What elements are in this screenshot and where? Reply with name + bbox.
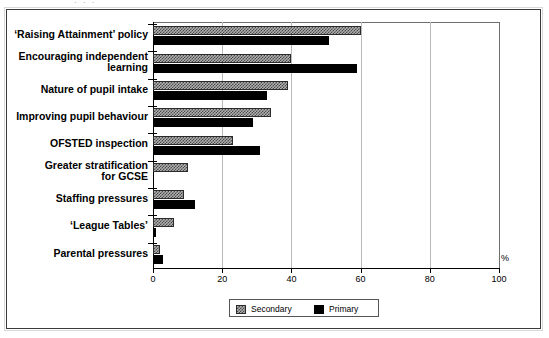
- category-label-1-line-1: learning: [2, 62, 148, 74]
- category-tick-1: [148, 51, 157, 52]
- category-label-0-line-0: ‘Raising Attainment’ policy: [2, 29, 148, 41]
- bar-primary-1: [153, 64, 357, 73]
- category-label-3: Improving pupil behaviour: [2, 111, 148, 123]
- bar-primary-4: [153, 146, 260, 155]
- category-label-4-line-0: OFSTED inspection: [2, 138, 148, 150]
- category-label-8: Parental pressures: [2, 248, 148, 260]
- chart-legend: Secondary Primary: [229, 299, 379, 317]
- bar-secondary-3: [153, 108, 271, 117]
- category-label-0: ‘Raising Attainment’ policy: [2, 29, 148, 41]
- category-axis-labels: ‘Raising Attainment’ policyEncouraging i…: [0, 0, 148, 338]
- category-label-6-line-0: Staffing pressures: [2, 193, 148, 205]
- bar-secondary-6: [153, 190, 184, 199]
- category-label-5-line-1: for GCSE: [2, 171, 148, 183]
- category-label-2: Nature of pupil intake: [2, 84, 148, 96]
- x-tick-label-40: 40: [276, 274, 306, 285]
- category-tick-6: [148, 188, 157, 189]
- bar-secondary-5: [153, 163, 188, 172]
- x-tick-label-100: 100: [484, 274, 514, 285]
- bar-secondary-1: [153, 54, 291, 63]
- x-tick-80: [430, 269, 431, 273]
- x-tick-40: [291, 269, 292, 273]
- gridline-60: [361, 22, 362, 268]
- bar-secondary-0: [153, 26, 361, 35]
- category-label-8-line-0: Parental pressures: [2, 248, 148, 260]
- chart-figure: · · · ‘Raising Attainment’ policyEncoura…: [0, 0, 549, 338]
- bar-secondary-2: [153, 81, 288, 90]
- bar-primary-2: [153, 91, 267, 100]
- x-tick-20: [222, 269, 223, 273]
- category-label-3-line-0: Improving pupil behaviour: [2, 111, 148, 123]
- category-tick-7: [148, 215, 157, 216]
- category-label-7-line-0: ‘League Tables’: [2, 220, 148, 232]
- bar-primary-0: [153, 36, 329, 45]
- gridline-40: [291, 22, 292, 268]
- legend-swatch-primary: [314, 305, 324, 314]
- bar-secondary-8: [153, 245, 160, 254]
- legend-label-secondary: Secondary: [251, 303, 292, 315]
- category-label-6: Staffing pressures: [2, 193, 148, 205]
- category-label-5: Greater stratificationfor GCSE: [2, 160, 148, 183]
- x-tick-0: [153, 269, 154, 273]
- x-tick-label-0: 0: [138, 274, 168, 285]
- category-tick-3: [148, 106, 157, 107]
- bar-secondary-4: [153, 136, 233, 145]
- category-tick-4: [148, 133, 157, 134]
- x-axis-line: [153, 268, 500, 269]
- category-label-4: OFSTED inspection: [2, 138, 148, 150]
- plot-top-border: [153, 22, 500, 23]
- gridline-80: [430, 22, 431, 268]
- legend-label-primary: Primary: [329, 303, 358, 315]
- category-label-1: Encouraging independentlearning: [2, 51, 148, 74]
- x-tick-label-80: 80: [415, 274, 445, 285]
- x-tick-60: [361, 269, 362, 273]
- bar-primary-3: [153, 118, 253, 127]
- category-tick-0: [148, 24, 157, 25]
- bar-primary-6: [153, 200, 195, 209]
- bar-secondary-7: [153, 218, 174, 227]
- x-tick-100: [499, 269, 500, 273]
- bar-primary-7: [153, 228, 156, 237]
- x-tick-label-60: 60: [346, 274, 376, 285]
- category-label-2-line-0: Nature of pupil intake: [2, 84, 148, 96]
- category-label-7: ‘League Tables’: [2, 220, 148, 232]
- percent-axis-unit: %: [501, 253, 509, 263]
- bar-primary-8: [153, 255, 163, 264]
- legend-swatch-secondary: [236, 305, 246, 314]
- plot-right-border: [499, 22, 500, 269]
- x-tick-label-20: 20: [207, 274, 237, 285]
